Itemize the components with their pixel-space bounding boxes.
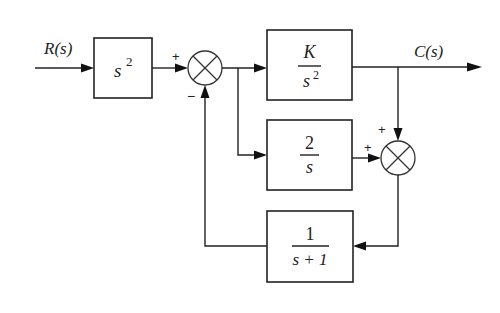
block-feedback: 1 s + 1 <box>267 211 353 282</box>
arrow-icon <box>81 64 94 73</box>
sum2-top-plus-sign: + <box>378 122 386 137</box>
sum1-minus-sign: − <box>187 88 195 104</box>
sum1-plus-sign: + <box>172 49 180 64</box>
arrow-icon <box>201 85 210 98</box>
feedback-denominator: s + 1 <box>292 250 327 269</box>
block-diagram: R(s) s 2 + − K s 2 C(s) + 2 s <box>0 0 500 313</box>
arrow-icon <box>467 63 482 72</box>
summing-junction-2 <box>381 141 415 175</box>
feedback-path <box>205 95 267 246</box>
output-label: C(s) <box>414 42 444 61</box>
forward-numerator: K <box>302 42 316 62</box>
arrow-icon <box>394 128 403 141</box>
arrow-icon <box>175 64 188 73</box>
forward-exponent: 2 <box>313 68 319 82</box>
input-label: R(s) <box>43 39 73 58</box>
summing-junction-1 <box>188 51 222 85</box>
prefilter-exponent: 2 <box>126 54 133 69</box>
wire <box>361 175 398 246</box>
block-forward: K s 2 <box>267 30 352 100</box>
parallel-numerator: 2 <box>305 133 314 153</box>
parallel-denominator: s <box>306 157 313 177</box>
block-prefilter: s 2 <box>94 38 152 98</box>
sum2-left-plus-sign: + <box>364 140 372 155</box>
wire <box>238 68 259 155</box>
arrow-icon <box>353 242 366 251</box>
block-parallel: 2 s <box>267 120 352 190</box>
forward-denominator: s <box>303 71 310 91</box>
arrow-icon <box>254 64 267 73</box>
feedback-numerator: 1 <box>306 224 315 244</box>
arrow-icon <box>254 151 267 160</box>
prefilter-base: s <box>114 60 121 81</box>
